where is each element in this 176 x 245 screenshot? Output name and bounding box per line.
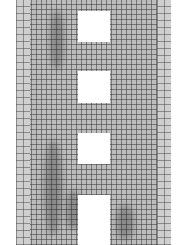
- facade-opening-3: [78, 133, 110, 164]
- shadow: [44, 140, 62, 235]
- facade-opening-4: [78, 195, 110, 245]
- shadow: [116, 205, 134, 240]
- facade-left-edge: [16, 0, 30, 245]
- facade-opening-2: [78, 71, 110, 103]
- facade-opening-1: [78, 11, 110, 42]
- shadow: [50, 10, 64, 70]
- facade-right-edge: [157, 0, 171, 245]
